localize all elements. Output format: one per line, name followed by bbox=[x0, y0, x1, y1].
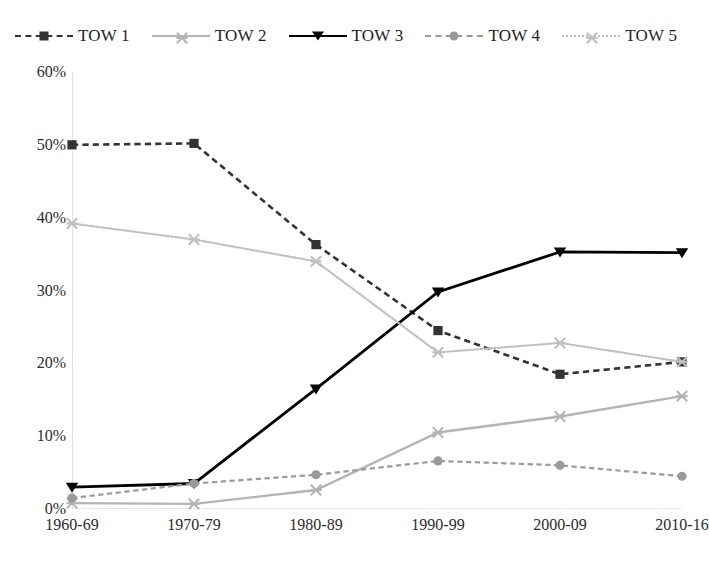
legend-item-tow-3[interactable]: TOW 3 bbox=[289, 26, 404, 46]
data-point bbox=[433, 456, 442, 465]
data-point bbox=[432, 427, 443, 437]
x-axis-tick-label: 1970-79 bbox=[167, 516, 220, 534]
data-point bbox=[554, 411, 565, 421]
data-point bbox=[189, 479, 198, 488]
legend-label: TOW 4 bbox=[488, 26, 540, 46]
series-tow-2 bbox=[66, 391, 687, 509]
legend-label: TOW 3 bbox=[352, 26, 404, 46]
data-point bbox=[433, 326, 442, 335]
y-axis: 0%10%20%30%40%50%60% bbox=[8, 72, 66, 509]
data-point bbox=[189, 139, 198, 148]
x-axis-tick-label: 2000-09 bbox=[533, 516, 586, 534]
data-point bbox=[188, 234, 199, 244]
x-axis: 1960-691970-791980-891990-992000-092010-… bbox=[72, 516, 682, 544]
square-marker-icon bbox=[39, 32, 48, 41]
data-point bbox=[67, 140, 76, 149]
legend-swatch-icon bbox=[289, 29, 347, 43]
circle-marker-icon bbox=[450, 32, 459, 41]
series-canvas bbox=[72, 72, 682, 509]
x-axis-tick-label: 1980-89 bbox=[289, 516, 342, 534]
x-marker-icon bbox=[586, 31, 597, 42]
data-point bbox=[188, 499, 199, 509]
data-point bbox=[432, 347, 443, 357]
data-point bbox=[66, 218, 77, 228]
y-axis-tick-label: 50% bbox=[14, 136, 66, 154]
triangle-marker-icon bbox=[312, 32, 324, 41]
plot-area bbox=[72, 72, 682, 509]
y-axis-tick-label: 20% bbox=[14, 354, 66, 372]
series-tow-4 bbox=[67, 456, 686, 502]
x-axis-tick-label: 2010-16 bbox=[655, 516, 708, 534]
legend-item-tow-5[interactable]: TOW 5 bbox=[562, 26, 677, 46]
legend-item-tow-1[interactable]: TOW 1 bbox=[15, 26, 130, 46]
data-point bbox=[676, 391, 687, 401]
y-axis-tick-label: 40% bbox=[14, 209, 66, 227]
series-line bbox=[72, 461, 682, 498]
x-axis-tick-label: 1960-69 bbox=[45, 516, 98, 534]
data-point bbox=[311, 470, 320, 479]
legend-item-tow-2[interactable]: TOW 2 bbox=[152, 26, 267, 46]
series-tow-1 bbox=[67, 139, 686, 379]
y-axis-tick-label: 30% bbox=[14, 282, 66, 300]
data-point bbox=[555, 461, 564, 470]
legend-swatch-icon bbox=[15, 29, 73, 43]
data-point bbox=[677, 472, 686, 481]
legend-swatch-icon bbox=[425, 29, 483, 43]
legend-swatch-icon bbox=[152, 29, 210, 43]
data-point bbox=[310, 485, 321, 495]
legend-label: TOW 2 bbox=[215, 26, 267, 46]
legend-swatch-icon bbox=[562, 29, 620, 43]
x-marker-icon bbox=[175, 31, 186, 42]
legend-label: TOW 5 bbox=[625, 26, 677, 46]
data-point bbox=[554, 338, 565, 348]
legend-item-tow-4[interactable]: TOW 4 bbox=[425, 26, 540, 46]
data-point bbox=[310, 256, 321, 266]
series-tow-5 bbox=[66, 218, 687, 367]
y-axis-tick-label: 60% bbox=[14, 63, 66, 81]
data-point bbox=[67, 493, 76, 502]
chart-legend: TOW 1TOW 2TOW 3TOW 4TOW 5 bbox=[0, 20, 692, 52]
y-axis-tick-label: 10% bbox=[14, 427, 66, 445]
legend-label: TOW 1 bbox=[78, 26, 130, 46]
data-point bbox=[555, 370, 564, 379]
data-point bbox=[311, 240, 320, 249]
x-axis-tick-label: 1990-99 bbox=[411, 516, 464, 534]
